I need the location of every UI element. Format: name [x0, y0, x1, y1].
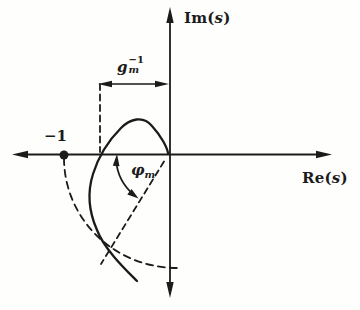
- imaginary-axis-top-arrowhead-icon: [166, 7, 173, 23]
- phase-margin-arc-top-arrowhead-icon: [113, 154, 120, 166]
- gain-margin-subscript: m: [129, 65, 144, 75]
- imaginary-axis-label-name: Im: [184, 9, 207, 27]
- gain-margin-symbol: g: [117, 55, 128, 76]
- gain-margin-label: g −1 m: [117, 55, 144, 76]
- imaginary-axis-label-var: s: [215, 9, 224, 27]
- phase-margin-label: φm: [131, 161, 155, 180]
- phase-margin-symbol: φ: [131, 161, 145, 179]
- real-axis-right-arrowhead-icon: [316, 151, 332, 158]
- imaginary-axis-label: Im(s): [184, 9, 231, 27]
- gain-margin-arrow: [98, 81, 169, 87]
- gain-margin-sub-sup: −1 m: [129, 55, 144, 75]
- real-axis-label: Re(s): [302, 169, 348, 187]
- gain-margin-right-arrowhead-icon: [155, 81, 169, 87]
- phase-margin-subscript: m: [145, 169, 156, 180]
- real-axis-left-arrowhead-icon: [12, 151, 28, 158]
- real-axis-label-open-paren: (: [324, 169, 331, 187]
- imaginary-axis-label-close-paren: ): [223, 9, 230, 27]
- real-axis-label-name: Re: [302, 169, 324, 187]
- nyquist-margin-diagram: Im(s) Re(s) −1 g −1 m φm: [0, 0, 360, 310]
- diagram-canvas: [0, 0, 360, 310]
- minus-one-label: −1: [44, 127, 67, 145]
- unit-circle-dashed-arc: [64, 158, 178, 268]
- real-axis-label-close-paren: ): [340, 169, 347, 187]
- minus-one-point: [60, 151, 69, 160]
- imaginary-axis-bottom-arrowhead-icon: [166, 282, 173, 298]
- imaginary-axis-label-open-paren: (: [207, 9, 214, 27]
